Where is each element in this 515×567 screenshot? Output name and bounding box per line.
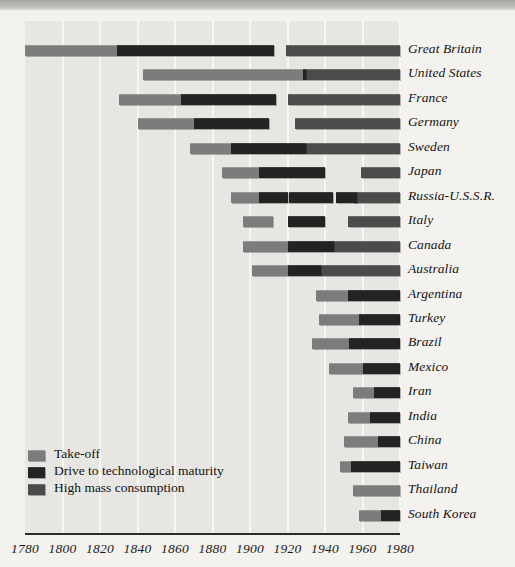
- x-tick-1820: 1820: [80, 541, 120, 557]
- category-label: Russia-U.S.S.R.: [408, 188, 495, 204]
- category-label: Italy: [408, 212, 433, 228]
- category-label: Mexico: [408, 359, 448, 375]
- category-label: Japan: [408, 163, 442, 179]
- bar-segment: [316, 290, 348, 301]
- bar-segment: [353, 485, 400, 496]
- bar-segment: [340, 461, 351, 472]
- bar-segment: [143, 69, 302, 80]
- category-label: China: [408, 432, 442, 448]
- x-tick-1920: 1920: [268, 541, 308, 557]
- bar-segment: [259, 192, 287, 203]
- bar-segment: [319, 314, 358, 325]
- x-tick-1780: 1780: [5, 541, 45, 557]
- bar-segment: [359, 510, 382, 521]
- bar-segment: [374, 387, 400, 398]
- bar-segment: [295, 118, 400, 129]
- bar-segment: [194, 118, 269, 129]
- x-axis-line: [25, 533, 400, 535]
- legend-label: Drive to technological maturity: [54, 463, 224, 479]
- bar-segment: [117, 45, 275, 56]
- bar-segment: [336, 192, 357, 203]
- bar-segment: [306, 143, 400, 154]
- bar-segment: [351, 461, 400, 472]
- bar-segment: [288, 216, 326, 227]
- bar-segment: [243, 241, 288, 252]
- bar-segment: [138, 118, 194, 129]
- category-label: United States: [408, 65, 482, 81]
- x-tick-1980: 1980: [380, 541, 420, 557]
- category-label: India: [408, 408, 437, 424]
- bar-segment: [381, 510, 400, 521]
- category-label: South Korea: [408, 506, 476, 522]
- bar-segment: [348, 216, 401, 227]
- bar-segment: [334, 241, 400, 252]
- bar-segment: [353, 192, 400, 203]
- bar-segment: [25, 45, 117, 56]
- bar-segment: [348, 412, 371, 423]
- category-label: Australia: [408, 261, 459, 277]
- category-label: Iran: [408, 383, 432, 399]
- category-label: Sweden: [408, 139, 450, 155]
- category-label: Germany: [408, 114, 459, 130]
- bar-segment: [289, 192, 332, 203]
- category-label: Great Britain: [408, 41, 482, 57]
- x-tick-1880: 1880: [193, 541, 233, 557]
- bar-segment: [288, 265, 322, 276]
- legend-label: High mass consumption: [54, 480, 185, 496]
- category-label: Taiwan: [408, 457, 448, 473]
- bar-segment: [190, 143, 231, 154]
- category-label: Canada: [408, 237, 451, 253]
- bar-segment: [361, 167, 400, 178]
- bar-segment: [286, 45, 400, 56]
- bar-segment: [222, 167, 260, 178]
- bar-segment: [353, 387, 374, 398]
- bar-segment: [349, 338, 400, 349]
- bar-segment: [252, 265, 288, 276]
- bar-segment: [231, 192, 259, 203]
- legend-swatch-drive: [28, 467, 45, 478]
- x-tick-1840: 1840: [118, 541, 158, 557]
- x-tick-1940: 1940: [305, 541, 345, 557]
- bar-segment: [378, 436, 401, 447]
- bar-segment: [348, 290, 401, 301]
- x-tick-1800: 1800: [43, 541, 83, 557]
- category-label: France: [408, 90, 448, 106]
- bar-segment: [359, 314, 400, 325]
- chart-figure: Great BritainUnited StatesFranceGermanyS…: [0, 10, 515, 567]
- bar-segment: [306, 69, 400, 80]
- legend-label: Take-off: [54, 446, 100, 462]
- bar-segment: [259, 167, 325, 178]
- category-label: Thailand: [408, 481, 458, 497]
- bar-segment: [370, 412, 400, 423]
- bar-segment: [321, 265, 400, 276]
- bar-segment: [243, 216, 273, 227]
- bar-segment: [329, 363, 363, 374]
- bar-segment: [119, 94, 181, 105]
- category-label: Turkey: [408, 310, 445, 326]
- bar-segment: [288, 94, 401, 105]
- category-label: Argentina: [408, 286, 462, 302]
- x-tick-1960: 1960: [343, 541, 383, 557]
- x-tick-1900: 1900: [230, 541, 270, 557]
- bar-segment: [288, 241, 335, 252]
- bar-segment: [303, 69, 307, 80]
- bar-segment: [344, 436, 378, 447]
- bar-segment: [312, 338, 350, 349]
- x-tick-1860: 1860: [155, 541, 195, 557]
- bar-segment: [231, 143, 306, 154]
- bar-segment: [363, 363, 401, 374]
- bar-segment: [181, 94, 277, 105]
- top-decorative-band: [0, 0, 515, 10]
- legend-swatch-takeoff: [28, 450, 45, 461]
- category-label: Brazil: [408, 334, 442, 350]
- legend-swatch-mass: [28, 484, 45, 495]
